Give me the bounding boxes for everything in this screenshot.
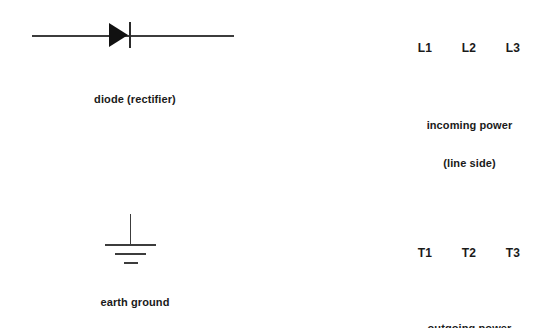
earth-ground-stem [130,214,132,245]
diode-anode-triangle [109,23,128,47]
terminal-marker-l3: L3 [502,41,524,55]
line-side-caption-line-2: (line side) [400,157,539,170]
earth-ground-bar-3 [124,262,138,264]
diode-cathode-bar [129,22,131,48]
diode-rectifier-icon [30,18,236,54]
terminal-marker-t1: T1 [414,246,436,260]
earth-ground-bar-1 [105,244,156,246]
load-side-caption: outgoing power (load side) [400,297,539,328]
line-side-caption-line-1: incoming power [400,119,539,132]
earth-ground-caption: earth ground [35,296,235,309]
terminal-marker-l2: L2 [458,41,480,55]
terminal-marker-t2: T2 [458,246,480,260]
terminal-marker-l1: L1 [414,41,436,55]
earth-ground-bar-2 [115,253,146,255]
diode-caption: diode (rectifier) [35,93,235,106]
load-side-caption-line-1: outgoing power [400,322,539,328]
earth-ground-icon [100,210,162,268]
line-side-caption: incoming power (line side) [400,94,539,194]
symbol-reference-canvas: diode (rectifier) L1 L2 L3 incoming powe… [0,0,539,328]
load-side-terminal-row: T1 T2 T3 [414,246,524,260]
diode-lead-wire [32,35,234,37]
line-side-terminal-row: L1 L2 L3 [414,41,524,55]
terminal-marker-t3: T3 [502,246,524,260]
